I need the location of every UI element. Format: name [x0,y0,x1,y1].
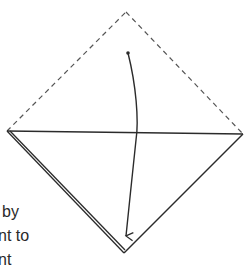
dashed-upper-right-edge [126,12,243,134]
horizontal-diagonal-fold [7,131,243,134]
origami-fold-diagram [0,0,245,272]
fold-arrow [126,53,137,236]
lower-left-edge-double [7,131,125,253]
lower-right-edge [124,134,243,253]
dashed-upper-left-edge [7,12,126,131]
